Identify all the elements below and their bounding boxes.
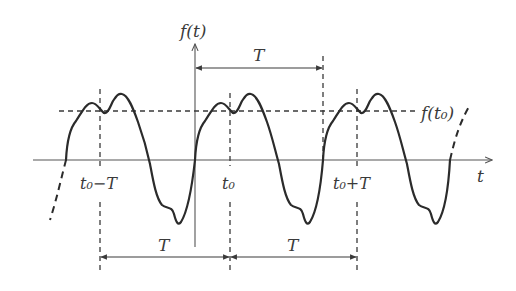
- x-axis-label: t: [477, 166, 484, 186]
- periodic-function-diagram: f(t) t f(t₀) t₀−T t₀ t₀+T T T T: [0, 0, 516, 291]
- marker-label-t0: t₀: [222, 174, 235, 193]
- period-label-top: T: [253, 45, 266, 65]
- diagram-canvas: f(t) t f(t₀) t₀−T t₀ t₀+T T T T: [0, 0, 516, 291]
- period-label-bottom-left: T: [158, 235, 171, 255]
- y-axis-label: f(t): [178, 21, 206, 41]
- periodic-curve: [66, 94, 450, 224]
- curve-continuation-left: [50, 160, 66, 220]
- period-label-bottom-right: T: [287, 235, 300, 255]
- marker-label-t0-minus-T: t₀−T: [80, 174, 118, 193]
- marker-label-t0-plus-T: t₀+T: [333, 174, 371, 193]
- level-label-f-t0: f(t₀): [419, 103, 454, 123]
